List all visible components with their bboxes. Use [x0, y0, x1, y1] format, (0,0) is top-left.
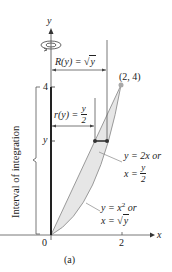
- outer-radius-arrowhead-left-icon: [52, 69, 56, 72]
- point-label: (2, 4): [119, 72, 141, 82]
- y-axis-arrow-icon: [49, 28, 54, 34]
- washer-outer-point: [105, 139, 109, 143]
- inner-radius-label: r(y) = y2: [54, 104, 87, 125]
- x-axis-label: x: [157, 230, 161, 240]
- radicand: y: [123, 214, 129, 226]
- line-curve-prefix: x =: [124, 168, 140, 179]
- point-2-4: [119, 83, 124, 88]
- x-tick-label-0: 0: [42, 238, 47, 248]
- parabola-label-2: x = √y: [101, 216, 129, 226]
- radicand: y: [89, 55, 95, 67]
- parabola-label-1: y = x2 or: [101, 202, 137, 213]
- outer-radius-prefix: R(y) =: [55, 56, 84, 67]
- leader-parabola-label: [86, 203, 100, 211]
- inner-radius-prefix: r(y) =: [54, 109, 81, 120]
- interval-brace: [33, 87, 40, 234]
- interval-of-integration-label: Interval of integration: [10, 126, 21, 218]
- radical-sign: √: [117, 215, 123, 226]
- fraction: y2: [140, 163, 146, 184]
- sqrt-expression: √y: [84, 57, 96, 67]
- x-axis-arrow-icon: [150, 233, 155, 238]
- sqrt-expression: √y: [117, 216, 129, 226]
- parabola-prefix: y = x: [101, 202, 122, 213]
- numerator: y: [81, 104, 87, 115]
- parabola-suffix: or: [125, 202, 136, 213]
- inner-radius-arrowhead-right-icon: [90, 125, 94, 128]
- numerator: y: [140, 163, 146, 174]
- parabola-line2-prefix: x =: [101, 215, 117, 226]
- outer-radius-arrowhead-right-icon: [102, 69, 106, 72]
- y-tick-label-4: 4: [43, 82, 48, 92]
- y-axis-label: y: [47, 16, 51, 26]
- denominator: 2: [82, 115, 87, 125]
- figure-caption: (a): [64, 255, 75, 265]
- denominator: 2: [141, 174, 146, 184]
- x-tick-label-2: 2: [119, 238, 124, 248]
- line-curve-label-1: y = 2x or: [124, 151, 161, 161]
- y-tick-label-y: y: [43, 135, 47, 145]
- washer-inner-point: [93, 139, 97, 143]
- diagram-graphics: [0, 0, 172, 272]
- washer-method-figure: y x 0 2 4 y R(y) = √y r(y) = y2 (2, 4) y…: [0, 0, 172, 272]
- line-curve-label-2: x = y2: [124, 163, 146, 184]
- outer-radius-label: R(y) = √y: [55, 57, 96, 67]
- fraction: y2: [81, 104, 87, 125]
